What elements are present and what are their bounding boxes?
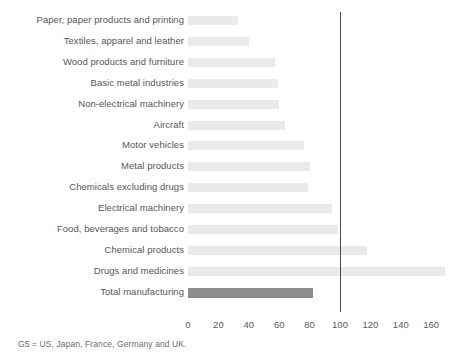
bar-row: Wood products and furniture bbox=[0, 55, 462, 76]
bar-category-label: Chemical products bbox=[0, 243, 184, 256]
bar bbox=[188, 183, 308, 192]
x-tick-label: 20 bbox=[213, 318, 224, 331]
bar-row: Motor vehicles bbox=[0, 138, 462, 159]
bar bbox=[188, 141, 304, 150]
x-tick-label: 40 bbox=[244, 318, 255, 331]
bar-category-label: Food, beverages and tobacco bbox=[0, 222, 184, 235]
bar-category-label: Motor vehicles bbox=[0, 138, 184, 151]
bar-category-label: Total manufacturing bbox=[0, 285, 184, 298]
bar-category-label: Paper, paper products and printing bbox=[0, 13, 184, 26]
bar bbox=[188, 100, 279, 109]
bar-row: Paper, paper products and printing bbox=[0, 13, 462, 34]
x-tick-label: 160 bbox=[423, 318, 439, 331]
bar bbox=[188, 162, 310, 171]
plot-area: Paper, paper products and printingTextil… bbox=[0, 0, 462, 318]
bar-category-label: Drugs and medicines bbox=[0, 264, 184, 277]
bar-row: Chemicals excluding drugs bbox=[0, 180, 462, 201]
bar-row: Total manufacturing bbox=[0, 285, 462, 306]
x-tick-label: 80 bbox=[304, 318, 315, 331]
bar bbox=[188, 204, 332, 213]
x-tick-label: 120 bbox=[362, 318, 378, 331]
bar bbox=[188, 288, 313, 298]
bar bbox=[188, 16, 238, 25]
bar bbox=[188, 58, 275, 67]
horizontal-bar-chart: Paper, paper products and printingTextil… bbox=[0, 0, 462, 357]
bar-category-label: Wood products and furniture bbox=[0, 55, 184, 68]
bar-category-label: Textiles, apparel and leather bbox=[0, 34, 184, 47]
bar bbox=[188, 225, 338, 234]
bar-row: Drugs and medicines bbox=[0, 264, 462, 285]
bar-category-label: Aircraft bbox=[0, 118, 184, 131]
reference-line-100 bbox=[340, 12, 341, 312]
x-tick-label: 140 bbox=[393, 318, 409, 331]
bar-category-label: Metal products bbox=[0, 159, 184, 172]
bar-category-label: Basic metal industries bbox=[0, 76, 184, 89]
x-tick-label: 60 bbox=[274, 318, 285, 331]
bar-row: Non-electrical machinery bbox=[0, 97, 462, 118]
x-axis: 020406080100120140160 bbox=[0, 318, 462, 334]
bar-row: Basic metal industries bbox=[0, 76, 462, 97]
bar bbox=[188, 121, 285, 130]
x-tick-label: 0 bbox=[185, 318, 190, 331]
bar-row: Electrical machinery bbox=[0, 201, 462, 222]
bar-row: Metal products bbox=[0, 159, 462, 180]
bar bbox=[188, 79, 278, 88]
bar-category-label: Non-electrical machinery bbox=[0, 97, 184, 110]
bar bbox=[188, 267, 445, 276]
bar bbox=[188, 37, 249, 46]
bar-row: Chemical products bbox=[0, 243, 462, 264]
bar-category-label: Electrical machinery bbox=[0, 201, 184, 214]
bar-row: Aircraft bbox=[0, 118, 462, 139]
bar-category-label: Chemicals excluding drugs bbox=[0, 180, 184, 193]
x-tick-label: 100 bbox=[332, 318, 348, 331]
bar-row: Food, beverages and tobacco bbox=[0, 222, 462, 243]
footnote: G5 = US, Japan, France, Germany and UK. bbox=[18, 338, 187, 350]
bar-row: Textiles, apparel and leather bbox=[0, 34, 462, 55]
